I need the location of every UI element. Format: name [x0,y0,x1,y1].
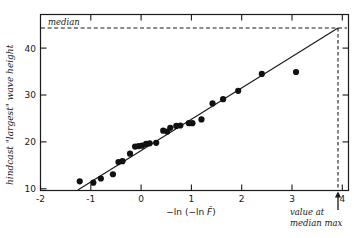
data-points [77,69,299,186]
data-point [189,120,195,126]
median-max-annotation-line1: value at [290,207,325,217]
data-point [198,116,204,122]
x-axis-ticks [41,15,343,191]
data-point [147,140,153,146]
fit-line [78,28,338,190]
y-tick-label: 20 [25,137,37,147]
y-tick-label: 40 [25,44,37,54]
plot-frame [41,15,349,191]
data-point [220,96,226,102]
data-point [119,158,125,164]
x-axis-title: −ln (−ln F̂) [166,206,215,217]
data-point [235,88,241,94]
data-point [259,71,265,77]
y-axis-ticks [41,48,349,189]
x-tick-label: -2 [36,194,45,204]
value-at-median-max-annotation: value at median max [290,207,343,228]
data-point [293,69,299,75]
chart-figure: 40 30 20 10 -2 -1 0 1 2 3 4 median [0,0,360,238]
x-tick-labels: -2 -1 0 1 2 3 4 [36,194,345,204]
data-point [153,140,159,146]
x-tick-label: 1 [189,194,195,204]
data-point [77,178,83,184]
x-tick-label: 4 [339,194,345,204]
gumbel-probability-plot: 40 30 20 10 -2 -1 0 1 2 3 4 median [0,0,360,238]
x-tick-label: 0 [138,194,144,204]
y-tick-labels: 40 30 20 10 [25,44,37,195]
y-tick-label: 30 [25,90,37,100]
data-point [90,180,96,186]
y-axis-title: hindcast "largest" wave height [5,44,15,185]
x-tick-label: 2 [239,194,245,204]
x-tick-label: 3 [289,194,295,204]
median-max-annotation-line2: median max [290,218,343,228]
x-tick-label: -1 [86,194,95,204]
data-point [177,122,183,128]
data-point [209,100,215,106]
data-point [127,151,133,157]
y-tick-label: 10 [25,184,37,194]
data-point [167,125,173,131]
data-point [110,171,116,177]
data-point [98,175,104,181]
median-label: median [48,17,80,27]
